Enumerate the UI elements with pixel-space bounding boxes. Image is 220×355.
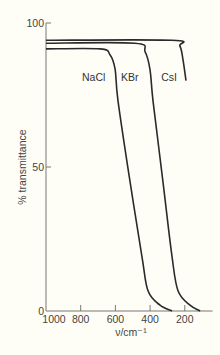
x-axis-title: ν/cm⁻¹ <box>115 326 147 338</box>
x-tick-label: 200 <box>176 313 194 325</box>
series-label-kbr: KBr <box>121 71 139 83</box>
curve-nacl <box>46 49 172 312</box>
series-label-csi: CsI <box>161 71 177 83</box>
series-labels: NaClKBrCsI <box>82 71 177 83</box>
y-tick-label: 100 <box>26 17 44 29</box>
axes <box>46 23 213 311</box>
x-tick-label: 1000 <box>42 313 66 325</box>
x-tick-label: 800 <box>72 313 90 325</box>
axis-ticks: 0501001000800600400200 <box>26 17 193 325</box>
x-tick-label: 600 <box>107 313 125 325</box>
y-tick-label: 50 <box>32 161 44 173</box>
series-label-nacl: NaCl <box>82 71 105 83</box>
curve-kbr <box>46 43 200 311</box>
x-tick-label: 400 <box>141 313 159 325</box>
y-axis-title: % transmittance <box>16 129 28 204</box>
transmittance-chart: 0501001000800600400200 NaClKBrCsI % tran… <box>0 0 220 355</box>
